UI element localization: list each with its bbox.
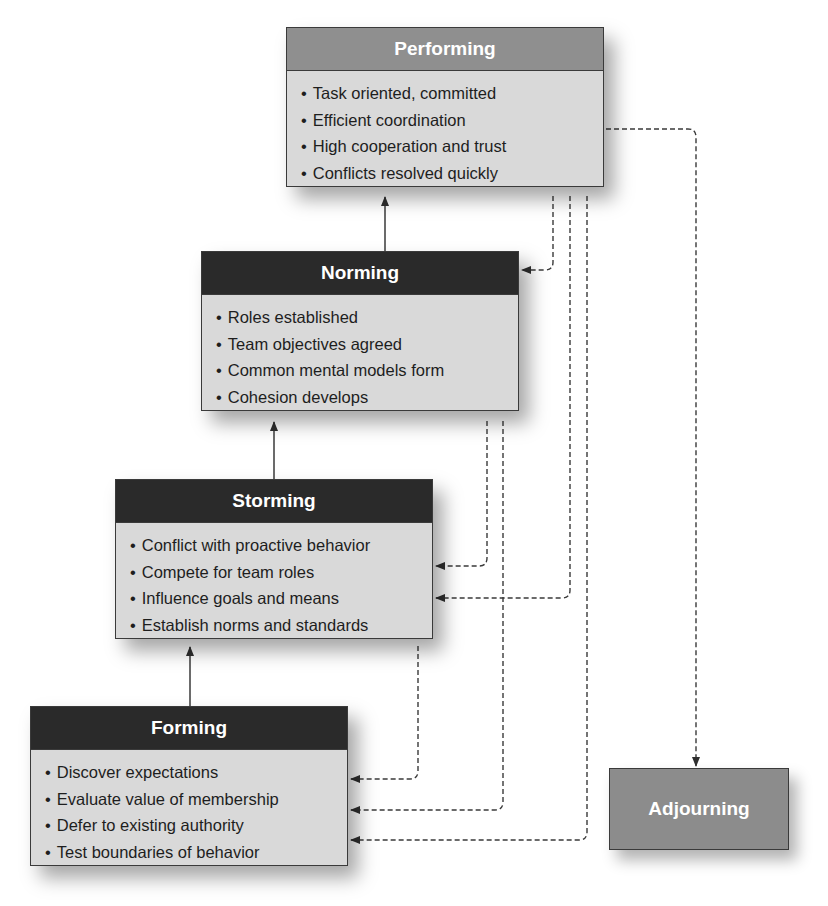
stage-item: Influence goals and means xyxy=(130,585,432,612)
dashed-storming-to-forming xyxy=(351,646,418,779)
stage-item: Compete for team roles xyxy=(130,559,432,586)
stage-items-storming: Conflict with proactive behavior Compete… xyxy=(116,523,432,638)
stage-title-norming: Norming xyxy=(202,252,518,295)
stage-item: Conflict with proactive behavior xyxy=(130,532,432,559)
stage-item: Defer to existing authority xyxy=(45,812,347,839)
stage-item: Efficient coordination xyxy=(301,107,603,134)
stage-items-forming: Discover expectations Evaluate value of … xyxy=(31,750,347,865)
dashed-performing-to-adjourning xyxy=(606,129,696,766)
stage-item: Establish norms and standards xyxy=(130,612,432,639)
stage-box-storming: Storming Conflict with proactive behavio… xyxy=(115,479,433,639)
stage-box-performing: Performing Task oriented, committed Effi… xyxy=(286,27,604,187)
stage-title-forming: Forming xyxy=(31,707,347,750)
stage-box-norming: Norming Roles established Team objective… xyxy=(201,251,519,411)
stage-item: Conflicts resolved quickly xyxy=(301,160,603,187)
stage-item: Common mental models form xyxy=(216,357,518,384)
stage-title-storming: Storming xyxy=(116,480,432,523)
stage-item: High cooperation and trust xyxy=(301,133,603,160)
stage-items-performing: Task oriented, committed Efficient coord… xyxy=(287,71,603,186)
stage-item: Team objectives agreed xyxy=(216,331,518,358)
team-development-diagram: Performing Task oriented, committed Effi… xyxy=(0,0,828,906)
stage-title-performing: Performing xyxy=(287,28,603,71)
stage-item: Test boundaries of behavior xyxy=(45,839,347,866)
stage-title-adjourning: Adjourning xyxy=(648,798,749,820)
stage-item: Cohesion develops xyxy=(216,384,518,411)
stage-item: Roles established xyxy=(216,304,518,331)
stage-item: Discover expectations xyxy=(45,759,347,786)
stage-item: Evaluate value of membership xyxy=(45,786,347,813)
stage-box-adjourning: Adjourning xyxy=(609,768,789,850)
dashed-norming-to-storming xyxy=(436,421,487,566)
stage-box-forming: Forming Discover expectations Evaluate v… xyxy=(30,706,348,866)
dashed-performing-to-norming xyxy=(522,196,553,270)
stage-item: Task oriented, committed xyxy=(301,80,603,107)
stage-items-norming: Roles established Team objectives agreed… xyxy=(202,295,518,410)
